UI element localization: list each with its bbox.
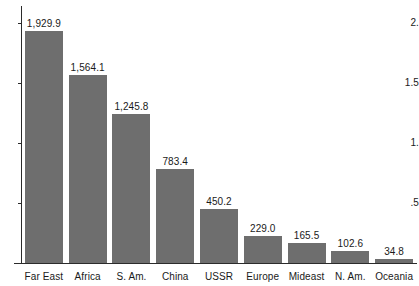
- category-labels: Far EastAfricaS. Am.ChinaUSSREuropeMidea…: [0, 0, 419, 286]
- x-category-label: Africa: [75, 271, 101, 282]
- x-category-label: Far East: [25, 271, 64, 282]
- x-category-label: USSR: [205, 271, 233, 282]
- x-category-label: N. Am.: [335, 271, 366, 282]
- x-category-label: Mideast: [289, 271, 325, 282]
- bar-chart: 2.1.51..5 1,929.91,564.11,245.8783.4450.…: [0, 0, 419, 286]
- x-category-label: China: [162, 271, 189, 282]
- x-category-label: Europe: [246, 271, 279, 282]
- x-category-label: Oceania: [375, 271, 413, 282]
- x-category-label: S. Am.: [116, 271, 146, 282]
